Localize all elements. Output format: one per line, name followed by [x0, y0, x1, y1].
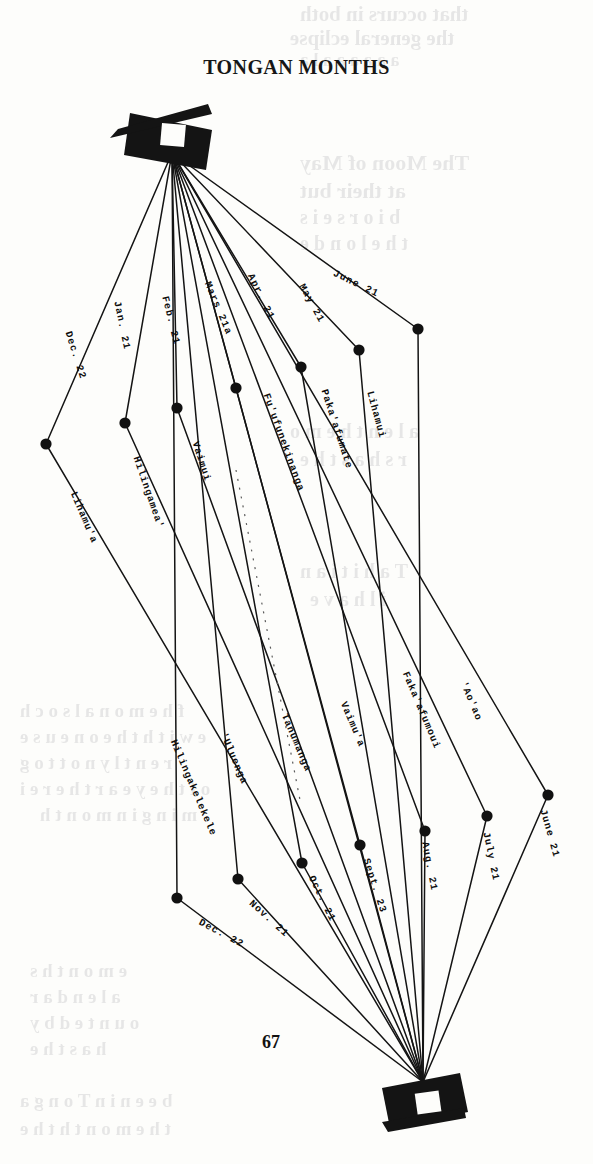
diagram-edge — [125, 153, 172, 423]
diagram-node — [230, 382, 241, 393]
diagram-node — [412, 323, 423, 334]
diagram-node — [296, 857, 307, 868]
diagram-node — [119, 417, 130, 428]
page-number: 67 — [262, 1032, 280, 1053]
diagram-node — [171, 402, 182, 413]
diagram-edge-dotted — [236, 470, 300, 800]
diagram-edge — [172, 153, 487, 816]
diagram-node — [232, 873, 243, 884]
diagram-node — [419, 825, 430, 836]
diagram-node — [542, 789, 553, 800]
diagram-edge — [301, 367, 423, 1082]
diagram-node — [171, 892, 182, 903]
diagram-edges — [46, 153, 548, 1082]
diagram-edge — [46, 153, 172, 444]
diagram-edge — [125, 423, 423, 1082]
kite-flag-icon — [382, 1073, 468, 1132]
diagram-node — [353, 344, 364, 355]
diagram-node — [40, 438, 51, 449]
kite-flag-icon — [110, 104, 212, 170]
diagram-edge — [172, 153, 360, 845]
tongan-months-diagram — [0, 0, 593, 1164]
diagram-node — [354, 839, 365, 850]
diagram-edge — [172, 153, 548, 795]
page-title: TONGAN MONTHS — [0, 56, 593, 79]
diagram-edge — [359, 350, 423, 1082]
diagram-node — [481, 810, 492, 821]
diagram-node — [295, 361, 306, 372]
